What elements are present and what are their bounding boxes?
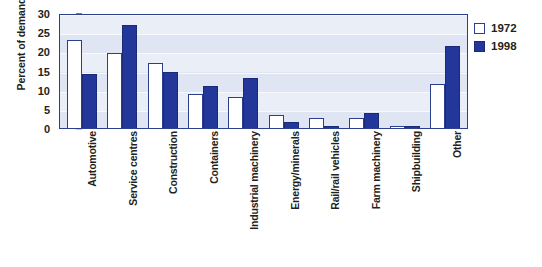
bar-chart-figure: Percent of demand 051015202530 Automotiv…: [0, 0, 542, 267]
bar-group: [143, 15, 183, 128]
bar-1972-energy-minerals[interactable]: [269, 115, 284, 128]
y-axis-tick-label: 10: [24, 85, 50, 96]
chart-legend: 19721998: [474, 23, 517, 52]
bar-1998-energy-minerals[interactable]: [284, 122, 299, 128]
y-axis-tick-label: 0: [24, 124, 50, 135]
bar-1972-containers[interactable]: [188, 94, 203, 129]
x-axis-label-shipbuilding: Shipbuilding: [410, 131, 422, 192]
x-axis-label-service-centres: Service centres: [127, 131, 139, 206]
bar-group: [344, 15, 384, 128]
legend-item-1972[interactable]: 1972: [474, 23, 517, 35]
y-axis-tick-label: 20: [24, 47, 50, 58]
x-axis-label-energy-minerals: Energy/minerals: [289, 131, 301, 210]
bar-group: [223, 15, 263, 128]
bar-1998-automotive[interactable]: [82, 74, 97, 128]
y-axis-tick-labels: 051015202530: [24, 14, 50, 129]
x-axis-label-industrial-machinery: Industrial machinery: [248, 131, 260, 230]
open-square-swatch: [474, 23, 485, 34]
x-label-slot: Service centres: [102, 131, 143, 261]
bar-1972-farm-machinery[interactable]: [349, 118, 364, 128]
x-label-slot: Other: [426, 131, 467, 261]
y-axis-tick-label: 30: [24, 9, 50, 20]
filled-square-swatch: [474, 41, 485, 52]
bar-group: [102, 15, 142, 128]
x-label-slot: Construction: [142, 131, 183, 261]
bar-1972-industrial-machinery[interactable]: [228, 97, 243, 128]
bar-group: [62, 15, 102, 128]
bar-1998-service-centres[interactable]: [122, 25, 137, 129]
bar-group: [425, 15, 465, 128]
legend-label: 1998: [491, 41, 517, 53]
bar-1972-service-centres[interactable]: [107, 53, 122, 128]
bar-1998-industrial-machinery[interactable]: [243, 78, 258, 128]
x-label-slot: Farm machinery: [345, 131, 386, 261]
bars-layer: [60, 15, 467, 128]
bar-1998-other[interactable]: [445, 46, 460, 128]
bar-1972-other[interactable]: [430, 84, 445, 128]
x-axis-category-labels: AutomotiveService centresConstructionCon…: [59, 131, 468, 261]
bar-group: [183, 15, 223, 128]
bar-1998-construction[interactable]: [163, 72, 178, 128]
x-axis-label-construction: Construction: [167, 131, 179, 194]
x-axis-label-automotive: Automotive: [86, 131, 98, 187]
bar-1998-rail-rail-vehicles[interactable]: [324, 126, 339, 128]
y-axis-tick-label: 25: [24, 28, 50, 39]
bar-1972-construction[interactable]: [148, 63, 163, 128]
y-axis-tick-label: 15: [24, 66, 50, 77]
bar-group: [263, 15, 303, 128]
y-axis-tick-label: 5: [24, 104, 50, 115]
bar-1998-containers[interactable]: [203, 86, 218, 128]
bar-1998-farm-machinery[interactable]: [364, 113, 379, 128]
x-label-slot: Energy/minerals: [264, 131, 305, 261]
x-label-slot: Rail/rail vehicles: [304, 131, 345, 261]
x-label-slot: Industrial machinery: [223, 131, 264, 261]
x-axis-label-containers: Containers: [208, 131, 220, 184]
bar-1972-shipbuilding[interactable]: [390, 126, 405, 128]
legend-label: 1972: [491, 23, 517, 35]
legend-item-1998[interactable]: 1998: [474, 41, 517, 53]
bar-1998-shipbuilding[interactable]: [405, 126, 420, 128]
plot-area: [59, 14, 468, 129]
bar-1972-rail-rail-vehicles[interactable]: [309, 118, 324, 128]
x-label-slot: Automotive: [61, 131, 102, 261]
x-axis-label-farm-machinery: Farm machinery: [370, 131, 382, 209]
bar-group: [384, 15, 424, 128]
x-axis-label-other: Other: [451, 131, 463, 158]
x-axis-label-rail-rail-vehicles: Rail/rail vehicles: [329, 131, 341, 210]
bar-group: [304, 15, 344, 128]
x-label-slot: Shipbuilding: [385, 131, 426, 261]
x-label-slot: Containers: [183, 131, 224, 261]
bar-1972-automotive[interactable]: [67, 40, 82, 128]
